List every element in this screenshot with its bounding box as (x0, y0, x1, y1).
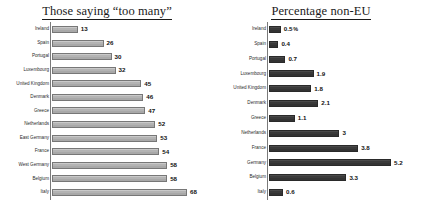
bar (269, 85, 311, 92)
bar-value-label: 45 (141, 81, 151, 87)
bar (52, 189, 187, 196)
bar-value-number: 32 (119, 66, 126, 73)
bar-value-number: 58 (170, 161, 177, 168)
bar-value-number: 68 (190, 188, 197, 195)
bar-value-number: 3.8 (361, 144, 370, 151)
bar-value-label: 58 (167, 162, 177, 168)
bar-value-label: 68 (187, 189, 197, 195)
bar-value-number: 45 (144, 80, 151, 87)
bar-category-label: Netherlands (2, 122, 52, 127)
bar-and-value: 3 (269, 130, 428, 137)
bar (52, 121, 155, 128)
bar-value-label: 0.4 (278, 41, 290, 47)
bar-category-label: Italy (216, 190, 269, 195)
bar (52, 53, 112, 60)
bar-row: Portugal0.7 (216, 54, 428, 65)
bar-value-label: 54 (159, 149, 169, 155)
bar-and-value: 13 (52, 26, 214, 33)
chart-panel-non-eu: Percentage non-EU Ireland0.5%Spain0.4Por… (214, 0, 428, 202)
bar-value-label: 3.8 (358, 145, 370, 151)
bar-and-value: 68 (52, 189, 214, 196)
bar-category-label: East Germany (2, 136, 52, 141)
bar-category-label: United Kingdom (2, 82, 52, 87)
bar (269, 41, 278, 48)
bar-category-label: Belgium (2, 177, 52, 182)
bar-value-number: 52 (158, 120, 165, 127)
bar-row: Luxembourg32 (2, 65, 214, 76)
bar-row: Netherlands3 (216, 128, 428, 139)
bar-value-label: 47 (145, 108, 155, 114)
bar (52, 94, 143, 101)
bar-value-number: 5.2 (394, 159, 403, 166)
bar-value-label: 3.3 (346, 175, 358, 181)
bar-value-label: 0.7 (285, 56, 297, 62)
bar-and-value: 1.8 (269, 85, 428, 92)
bar-row: Luxembourg1.9 (216, 68, 428, 79)
bar-category-label: Portugal (216, 57, 269, 62)
chart-panel-too-many: Those saying “too many” Ireland13Spain26… (0, 0, 214, 202)
bar-value-number: 54 (162, 148, 169, 155)
bar-row: Belgium3.3 (216, 172, 428, 183)
bar-value-label: 58 (167, 176, 177, 182)
bar-value-number: 30 (115, 53, 122, 60)
bar-and-value: 45 (52, 80, 214, 87)
bar-row: Denmark2.1 (216, 98, 428, 109)
bar-row: Italy68 (2, 187, 214, 198)
dual-bar-chart-figure: Those saying “too many” Ireland13Spain26… (0, 0, 428, 202)
bar-value-label: 26 (104, 40, 114, 46)
bar-category-label: Greece (216, 116, 269, 121)
bar-value-label: 0.5% (281, 26, 298, 32)
bar-category-label: Luxembourg (216, 72, 269, 77)
bar (269, 56, 285, 63)
bar-value-label: 32 (116, 67, 126, 73)
bar (269, 159, 391, 166)
bar-category-label: France (2, 149, 52, 154)
bar-and-value: 0.5% (269, 26, 428, 33)
bar (52, 67, 116, 74)
bar-category-label: Germany (216, 161, 269, 166)
bar-value-label: 1.1 (295, 115, 307, 121)
bar-and-value: 0.4 (269, 41, 428, 48)
bar (52, 40, 104, 47)
bar-value-number: 0.7 (288, 55, 297, 62)
bar-category-label: France (216, 146, 269, 151)
bar (52, 148, 159, 155)
bar-and-value: 58 (52, 162, 214, 169)
bar-category-label: Greece (2, 109, 52, 114)
bar-value-number: 46 (146, 93, 153, 100)
bar (269, 100, 318, 107)
bar-and-value: 46 (52, 94, 214, 101)
bar-value-label: 52 (155, 121, 165, 127)
bar-and-value: 52 (52, 121, 214, 128)
bar (52, 26, 78, 33)
bar (52, 175, 167, 182)
bar-and-value: 5.2 (269, 159, 428, 166)
bar-value-number: 2.1 (321, 99, 330, 106)
bar-category-label: Italy (2, 190, 52, 195)
bar-row: West Germany58 (2, 160, 214, 171)
bar-value-number: 26 (107, 39, 114, 46)
bar-and-value: 54 (52, 148, 214, 155)
bar-value-label: 1.9 (314, 71, 326, 77)
bar-value-number: 1.8 (314, 85, 323, 92)
bar-value-unit: % (292, 26, 298, 32)
bar-value-label: 5.2 (391, 160, 403, 166)
bar (52, 107, 145, 114)
bar (269, 130, 339, 137)
bar-and-value: 0.6 (269, 189, 428, 196)
bar-value-number: 3.3 (349, 174, 358, 181)
bar-category-label: West Germany (2, 163, 52, 168)
bar-value-number: 0.4 (281, 40, 290, 47)
bar (269, 115, 295, 122)
bar-value-number: 13 (81, 25, 88, 32)
bar (269, 70, 314, 77)
bar-value-number: 0.6 (286, 188, 295, 195)
bar-value-label: 46 (143, 94, 153, 100)
bar-and-value: 3.3 (269, 174, 428, 181)
bar-and-value: 32 (52, 67, 214, 74)
bar-and-value: 53 (52, 135, 214, 142)
bar-value-number: 1.1 (298, 114, 307, 121)
bar-row: East Germany53 (2, 133, 214, 144)
bar-value-label: 0.6 (283, 189, 295, 195)
bar-and-value: 26 (52, 40, 214, 47)
